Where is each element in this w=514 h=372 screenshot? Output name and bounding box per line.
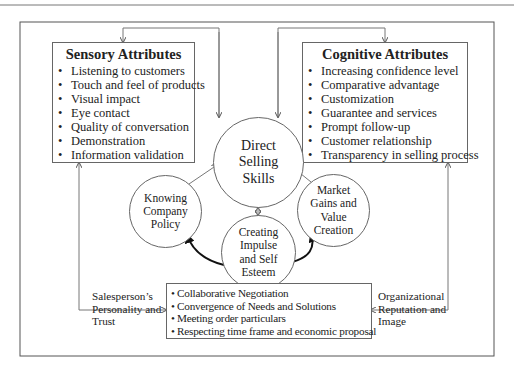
label-line: Trust (92, 315, 161, 328)
list-item: Respecting time frame and economic propo… (177, 325, 371, 338)
list-item: Eye contact (71, 106, 194, 120)
node-label: Direct (239, 138, 279, 154)
list-item: Guarantee and services (321, 106, 467, 120)
creating-impulse-node: Creating Impulse and Self Esteem (221, 215, 296, 290)
list-item: Collaborative Negotiation (177, 287, 371, 300)
list-item: Customer relationship (321, 134, 467, 148)
label-line: Organizational (378, 290, 446, 303)
list-item: Convergence of Needs and Solutions (177, 300, 371, 313)
list-item: Prompt follow-up (321, 120, 467, 134)
node-label: Creation (310, 224, 356, 237)
node-label: and Self (239, 253, 279, 266)
node-label: Impulse (239, 239, 279, 252)
list-item: Meeting order particulars (177, 312, 371, 325)
node-label: Value (310, 211, 356, 224)
list-item: Customization (321, 92, 467, 106)
label-line: Personality and (92, 303, 161, 316)
node-label: Market (310, 184, 356, 197)
list-item: Information validation (71, 148, 194, 162)
cognitive-attributes-list: Increasing confidence level Comparative … (303, 64, 467, 162)
node-label: Esteem (239, 266, 279, 279)
sensory-attributes-list: Listening to customers Touch and feel of… (53, 64, 194, 162)
list-item: Quality of conversation (71, 120, 194, 134)
negotiation-box: Collaborative Negotiation Convergence of… (166, 283, 372, 339)
list-item: Transparency in selling process (321, 148, 467, 162)
node-label: Company (143, 205, 188, 218)
organizational-label: Organizational Reputation and Image (378, 290, 446, 328)
list-item: Comparative advantage (321, 78, 467, 92)
market-gains-node: Market Gains and Value Creation (297, 174, 370, 247)
node-label: Skills (239, 171, 279, 187)
list-item: Increasing confidence level (321, 64, 467, 78)
node-label: Creating (239, 226, 279, 239)
list-item: Demonstration (71, 134, 194, 148)
direct-selling-skills-node: Direct Selling Skills (213, 117, 304, 208)
node-label: Policy (143, 218, 188, 231)
node-label: Selling (239, 154, 279, 170)
label-line: Image (378, 315, 446, 328)
list-item: Touch and feel of products (71, 78, 194, 92)
cognitive-attributes-box: Cognitive Attributes Increasing confiden… (302, 42, 468, 163)
label-line: Salesperson’s (92, 290, 161, 303)
label-line: Reputation and (378, 303, 446, 316)
knowing-company-policy-node: Knowing Company Policy (129, 175, 202, 248)
list-item: Listening to customers (71, 64, 194, 78)
negotiation-list: Collaborative Negotiation Convergence of… (167, 287, 371, 337)
cognitive-attributes-title: Cognitive Attributes (303, 46, 467, 63)
sensory-attributes-title: Sensory Attributes (53, 46, 194, 63)
sensory-attributes-box: Sensory Attributes Listening to customer… (52, 42, 195, 163)
node-label: Gains and (310, 197, 356, 210)
salesperson-label: Salesperson’s Personality and Trust (92, 290, 161, 328)
list-item: Visual impact (71, 92, 194, 106)
node-label: Knowing (143, 192, 188, 205)
